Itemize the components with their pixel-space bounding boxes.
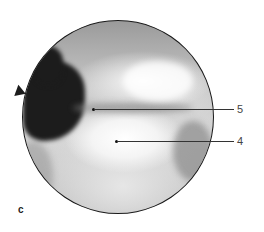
label-5-leader bbox=[94, 109, 234, 110]
shadow-right bbox=[173, 121, 213, 181]
label-4-leader bbox=[117, 141, 234, 142]
label-4: 4 bbox=[237, 135, 243, 147]
lower-edge-shade bbox=[22, 141, 53, 211]
dark-region bbox=[33, 46, 63, 86]
arthroscopic-image bbox=[22, 20, 214, 214]
panel-label: c bbox=[18, 204, 24, 215]
arthroscopy-figure: 5 4 c bbox=[0, 0, 264, 232]
bright-highlight bbox=[123, 61, 193, 101]
label-5: 5 bbox=[237, 103, 243, 115]
shadow-band bbox=[73, 103, 193, 113]
